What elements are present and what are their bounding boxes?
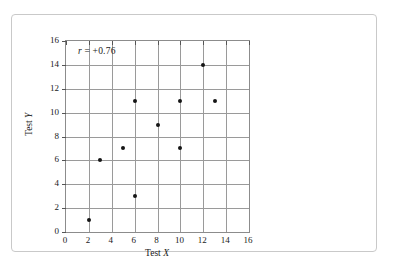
- data-point: [178, 99, 182, 103]
- y-axis-tick: [62, 184, 66, 185]
- data-point: [121, 146, 125, 150]
- y-axis-tick: [62, 232, 66, 233]
- y-axis-tick: [62, 137, 66, 138]
- x-axis-tick-label: 2: [86, 235, 91, 245]
- x-axis-tick-label: 8: [154, 235, 159, 245]
- x-axis-tick-label: 16: [244, 235, 253, 245]
- x-axis-label-text: Test: [145, 248, 163, 258]
- data-point: [87, 218, 91, 222]
- data-point: [98, 158, 102, 162]
- y-axis-tick: [62, 113, 66, 114]
- y-axis-tick-label: 6: [43, 154, 59, 164]
- y-axis-label-text: Test: [24, 118, 34, 136]
- x-axis-tick: [112, 41, 113, 45]
- y-axis-tick-label: 14: [43, 59, 59, 69]
- scatter-chart: Test Y Test X 0246810121416 024681012141…: [12, 15, 272, 253]
- x-axis-tick: [226, 41, 227, 45]
- y-axis-tick-label: 10: [43, 107, 59, 117]
- x-axis-tick-label: 4: [109, 235, 114, 245]
- gridline-horizontal: [66, 137, 249, 138]
- data-point: [133, 194, 137, 198]
- y-axis-tick: [62, 89, 66, 90]
- x-axis-tick-label: 0: [63, 235, 68, 245]
- x-axis-tick-label: 14: [221, 235, 230, 245]
- x-axis-label: Test X: [145, 248, 169, 258]
- data-point: [213, 99, 217, 103]
- y-axis-tick-label: 8: [43, 131, 59, 141]
- y-axis-tick-label: 0: [43, 226, 59, 236]
- correlation-annotation: r = +0.76: [78, 46, 116, 56]
- y-axis-label-variable: Y: [24, 113, 34, 118]
- data-point: [133, 99, 137, 103]
- data-point: [156, 123, 160, 127]
- x-axis-label-variable: X: [163, 248, 169, 258]
- y-axis-tick: [62, 41, 66, 42]
- y-axis-tick: [62, 160, 66, 161]
- x-axis-tick: [66, 41, 67, 45]
- y-axis-tick-label: 16: [43, 35, 59, 45]
- y-axis-tick-label: 4: [43, 178, 59, 188]
- y-axis-tick-label: 2: [43, 202, 59, 212]
- x-axis-tick: [158, 41, 159, 45]
- y-axis-tick-label: 12: [43, 83, 59, 93]
- x-axis-tick-label: 12: [198, 235, 207, 245]
- correlation-value: = +0.76: [82, 46, 116, 56]
- x-axis-tick-label: 10: [175, 235, 184, 245]
- x-axis-tick: [249, 41, 250, 45]
- gridline-horizontal: [66, 65, 249, 66]
- figure-frame: Test Y Test X 0246810121416 024681012141…: [11, 14, 377, 252]
- x-axis-tick: [135, 41, 136, 45]
- gridline-horizontal: [66, 113, 249, 114]
- data-point: [178, 146, 182, 150]
- y-axis-label: Test Y: [24, 113, 34, 136]
- x-axis-tick: [203, 41, 204, 45]
- gridline-horizontal: [66, 184, 249, 185]
- gridline-horizontal: [66, 89, 249, 90]
- data-point: [201, 63, 205, 67]
- x-axis-tick: [89, 41, 90, 45]
- plot-area: r = +0.76: [65, 40, 250, 233]
- y-axis-tick: [62, 65, 66, 66]
- x-axis-tick: [180, 41, 181, 45]
- y-axis-tick: [62, 208, 66, 209]
- gridline-horizontal: [66, 160, 249, 161]
- gridline-horizontal: [66, 208, 249, 209]
- x-axis-tick-label: 6: [131, 235, 136, 245]
